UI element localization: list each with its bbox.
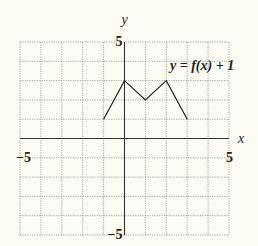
y-max-tick-label: 5 (116, 34, 123, 49)
equation-annotation: y = f(x) + 1 (168, 58, 234, 74)
x-axis-label: x (237, 131, 245, 146)
x-min-tick-label: −5 (16, 150, 31, 165)
x-max-tick-label: 5 (226, 150, 233, 165)
y-axis-label: y (119, 12, 128, 27)
function-graph: y x 5 −5 −5 5 y = f(x) + 1 (0, 0, 258, 246)
y-min-tick-label: −5 (108, 227, 123, 242)
